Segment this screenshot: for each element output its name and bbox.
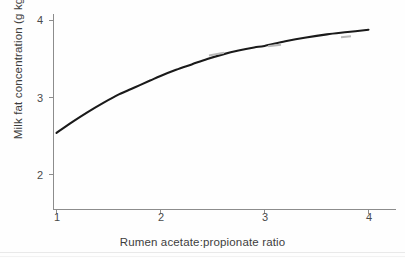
chart-plot-area [0,0,405,258]
x-tick-label-3: 3 [262,212,268,223]
x-axis-title: Rumen acetate:propionate ratio [0,236,405,248]
y-tick-label-4: 4 [27,15,43,26]
y-tick-label-3: 3 [27,93,43,104]
y-axis-title-container: Milk fat concentration (g kg−1) [8,0,28,157]
y-axis-title-main: Milk fat concentration (g kg [12,0,24,139]
x-tick-label-4: 4 [366,212,372,223]
curve-scan-dropout-c [341,36,351,37]
x-tick-label-2: 2 [158,212,164,223]
y-axis-title: Milk fat concentration (g kg−1) [12,0,24,139]
data-curve-milk-fat [57,30,369,133]
x-tick-label-1: 1 [54,212,60,223]
y-tick-label-2: 2 [27,170,43,181]
figure-panel: 4 3 2 1 2 3 4 Rumen acetate:propionate r… [0,0,405,258]
